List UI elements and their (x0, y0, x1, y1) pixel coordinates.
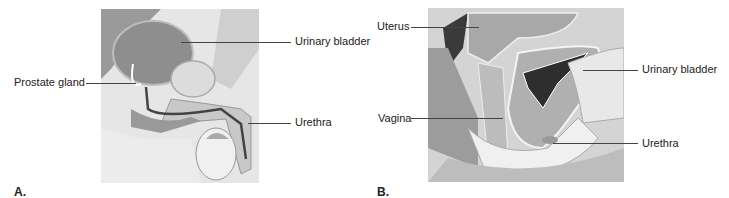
panel-letter-b: B. (377, 185, 389, 198)
leader-line-urinary-bladder (181, 42, 291, 43)
leader-line-urethra (248, 123, 291, 124)
label-vagina: Vagina (378, 112, 411, 124)
label-prostate-gland: Prostate gland (14, 76, 85, 88)
male-pelvis-illustration (101, 9, 259, 183)
leader-line-urethra-b (553, 143, 638, 144)
female-pelvis-illustration (428, 8, 624, 182)
label-uterus: Uterus (377, 20, 409, 32)
label-urinary-bladder: Urinary bladder (295, 35, 370, 47)
leader-line-uterus (411, 27, 479, 28)
panel-a-male-anatomy: Urinary bladder Prostate gland Urethra A… (0, 0, 370, 198)
leader-line-prostate-gland (86, 83, 136, 84)
leader-line-urinary-bladder-b (583, 70, 638, 71)
label-urethra: Urethra (295, 116, 332, 128)
panel-b-female-anatomy: Uterus Urinary bladder Vagina Urethra B. (370, 0, 729, 198)
leader-line-vagina (411, 118, 503, 119)
label-urinary-bladder-b: Urinary bladder (642, 63, 717, 75)
label-urethra-b: Urethra (642, 137, 679, 149)
panel-letter-a: A. (14, 185, 26, 198)
